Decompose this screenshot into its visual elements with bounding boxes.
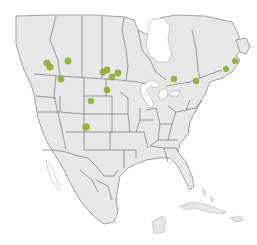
hudson-bay	[146, 18, 172, 62]
hispaniola	[230, 216, 244, 222]
occurrence-marker	[58, 76, 65, 83]
map-canvas	[0, 0, 257, 245]
occurrence-marker	[193, 78, 199, 84]
occurrence-marker	[104, 67, 111, 74]
landmass-north-america	[16, 15, 242, 224]
occurrence-marker	[82, 123, 90, 131]
gulf-of-california	[46, 160, 60, 190]
occurrence-marker	[115, 70, 122, 77]
occurrence-marker	[88, 98, 94, 104]
yucatan	[152, 216, 166, 234]
occurrence-marker	[171, 76, 177, 82]
bahamas	[202, 188, 214, 202]
distribution-map	[0, 0, 257, 245]
occurrence-marker	[65, 58, 72, 65]
cuba	[180, 202, 226, 214]
occurrence-marker	[46, 63, 53, 70]
occurrence-marker	[104, 87, 110, 93]
occurrence-marker	[232, 58, 238, 64]
occurrence-marker	[109, 74, 116, 81]
occurrence-marker	[223, 66, 229, 72]
